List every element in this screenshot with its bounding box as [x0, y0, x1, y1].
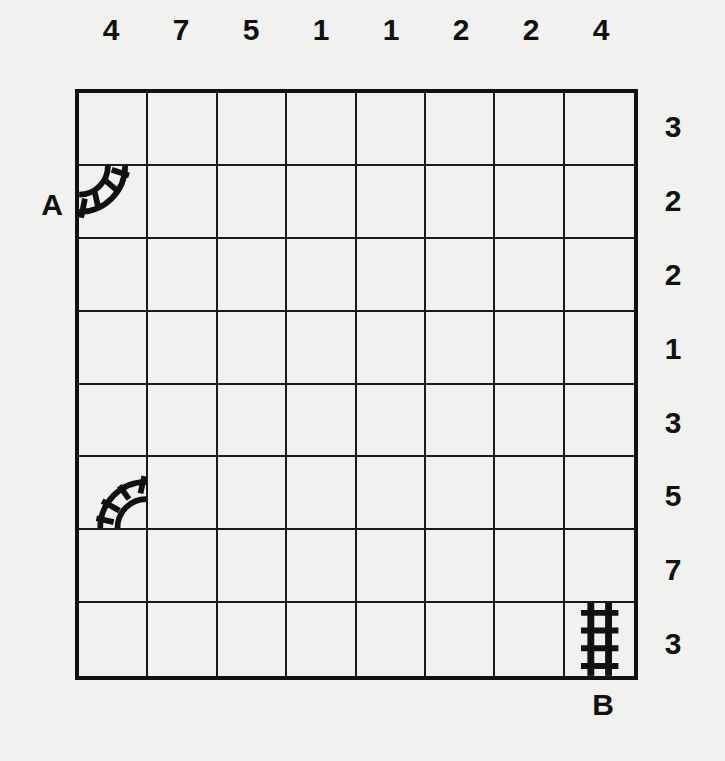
- column-clue-5: 1: [356, 15, 426, 51]
- grid-cell[interactable]: [287, 603, 356, 676]
- grid-cell[interactable]: [148, 239, 217, 312]
- grid-cell[interactable]: [218, 457, 287, 530]
- track-curve-right-bottom-icon: [79, 457, 146, 528]
- grid-cell[interactable]: [79, 93, 148, 166]
- row-clue-7: 7: [648, 555, 698, 591]
- grid-cell[interactable]: [357, 166, 426, 239]
- grid-cell[interactable]: [148, 93, 217, 166]
- grid-cell[interactable]: [495, 239, 564, 312]
- grid-cell[interactable]: [357, 385, 426, 458]
- grid-cell[interactable]: [287, 530, 356, 603]
- grid-cell-given-track-b: [565, 603, 634, 676]
- grid-cell[interactable]: [79, 312, 148, 385]
- grid-cell[interactable]: [287, 239, 356, 312]
- grid-cell[interactable]: [218, 530, 287, 603]
- grid-cell[interactable]: [426, 239, 495, 312]
- grid-cell[interactable]: [287, 312, 356, 385]
- grid-cell[interactable]: [218, 312, 287, 385]
- grid-cell[interactable]: [495, 603, 564, 676]
- grid-cell[interactable]: [426, 603, 495, 676]
- grid-cell[interactable]: [565, 93, 634, 166]
- grid-cell-given-track: [79, 457, 148, 530]
- grid-cell[interactable]: [357, 93, 426, 166]
- grid-cell[interactable]: [565, 166, 634, 239]
- grid-cell[interactable]: [357, 530, 426, 603]
- row-clue-4: 1: [648, 334, 698, 370]
- grid-cell[interactable]: [79, 239, 148, 312]
- column-clue-8: 4: [566, 15, 636, 51]
- grid-cell[interactable]: [495, 93, 564, 166]
- grid-cell[interactable]: [565, 530, 634, 603]
- grid-cell[interactable]: [426, 312, 495, 385]
- grid-cell[interactable]: [565, 312, 634, 385]
- puzzle-page: 4 7 5 1 1 2 2 4 3 2 2 1 3 5 7 3 A B: [0, 0, 725, 761]
- grid-cell[interactable]: [287, 166, 356, 239]
- grid-cell[interactable]: [426, 166, 495, 239]
- grid-cell[interactable]: [79, 603, 148, 676]
- grid-cell[interactable]: [495, 457, 564, 530]
- grid-cell[interactable]: [565, 457, 634, 530]
- grid-cell[interactable]: [79, 385, 148, 458]
- grid-cell[interactable]: [218, 93, 287, 166]
- grid-cell[interactable]: [426, 385, 495, 458]
- grid-cell[interactable]: [357, 603, 426, 676]
- row-clue-6: 5: [648, 481, 698, 517]
- column-clue-6: 2: [426, 15, 496, 51]
- grid-cell[interactable]: [495, 385, 564, 458]
- grid-cell[interactable]: [426, 93, 495, 166]
- grid-cell[interactable]: [148, 312, 217, 385]
- grid-cell[interactable]: [357, 239, 426, 312]
- grid-cell[interactable]: [79, 530, 148, 603]
- grid-cell[interactable]: [148, 457, 217, 530]
- grid-cell[interactable]: [495, 530, 564, 603]
- row-clue-2: 2: [648, 186, 698, 222]
- grid-cell[interactable]: [148, 166, 217, 239]
- grid-cell[interactable]: [565, 385, 634, 458]
- grid-cell[interactable]: [218, 239, 287, 312]
- column-clue-3: 5: [216, 15, 286, 51]
- row-clue-3: 2: [648, 260, 698, 296]
- puzzle-grid: [75, 89, 638, 680]
- column-clue-2: 7: [146, 15, 216, 51]
- column-clue-7: 2: [496, 15, 566, 51]
- grid-cell-given-track-a: [79, 166, 148, 239]
- grid-cell[interactable]: [426, 457, 495, 530]
- grid-cell[interactable]: [287, 93, 356, 166]
- grid-cell[interactable]: [148, 603, 217, 676]
- grid-cell[interactable]: [565, 239, 634, 312]
- grid-cell[interactable]: [148, 385, 217, 458]
- start-label-a: A: [32, 190, 72, 224]
- row-clue-8: 3: [648, 629, 698, 665]
- track-curve-left-top-icon: [79, 166, 146, 237]
- grid-cell[interactable]: [426, 530, 495, 603]
- grid-cell[interactable]: [287, 385, 356, 458]
- grid-cell[interactable]: [287, 457, 356, 530]
- end-label-b: B: [583, 690, 623, 724]
- grid-cell[interactable]: [218, 166, 287, 239]
- grid-cell[interactable]: [357, 312, 426, 385]
- grid-cell[interactable]: [357, 457, 426, 530]
- row-clue-1: 3: [648, 112, 698, 148]
- row-clue-5: 3: [648, 408, 698, 444]
- grid-cell[interactable]: [218, 385, 287, 458]
- grid-cell[interactable]: [495, 166, 564, 239]
- column-clue-1: 4: [76, 15, 146, 51]
- grid-cell[interactable]: [218, 603, 287, 676]
- track-straight-vertical-icon: [565, 603, 634, 676]
- grid-cell[interactable]: [148, 530, 217, 603]
- grid-cell[interactable]: [495, 312, 564, 385]
- column-clue-4: 1: [286, 15, 356, 51]
